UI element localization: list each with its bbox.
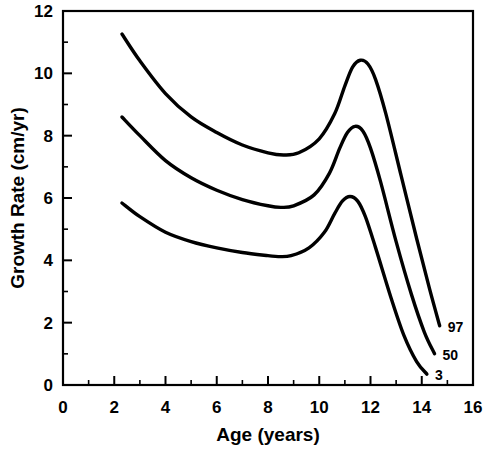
- chart-canvas: 0246810121416024681012Age (years)Growth …: [0, 0, 485, 450]
- series-label-50: 50: [443, 347, 459, 363]
- x-axis-tick-label: 6: [212, 398, 221, 417]
- x-axis-title: Age (years): [216, 424, 320, 445]
- x-axis-tick-label: 0: [58, 398, 67, 417]
- x-axis-tick-label: 10: [310, 398, 329, 417]
- x-axis-tick-label: 12: [361, 398, 380, 417]
- y-axis-title: Growth Rate (cm/yr): [7, 107, 28, 289]
- y-axis-tick-label: 4: [44, 251, 54, 270]
- x-axis-tick-label: 16: [464, 398, 483, 417]
- series-label-97: 97: [448, 319, 464, 335]
- series-curve-3: [122, 196, 427, 374]
- x-axis-tick-label: 14: [412, 398, 431, 417]
- x-axis-tick-label: 2: [110, 398, 119, 417]
- y-axis-tick-label: 0: [44, 376, 53, 395]
- y-axis-tick-label: 2: [44, 314, 53, 333]
- y-axis-tick-label: 10: [34, 64, 53, 83]
- growth-rate-chart: 0246810121416024681012Age (years)Growth …: [0, 0, 485, 450]
- series-label-3: 3: [435, 367, 443, 383]
- x-axis-tick-label: 4: [161, 398, 171, 417]
- y-axis-tick-label: 6: [44, 189, 53, 208]
- x-axis-tick-label: 8: [263, 398, 272, 417]
- plot-frame: [63, 11, 473, 385]
- y-axis-tick-label: 12: [34, 2, 53, 21]
- y-axis-tick-label: 8: [44, 127, 53, 146]
- series-curve-97: [122, 34, 440, 326]
